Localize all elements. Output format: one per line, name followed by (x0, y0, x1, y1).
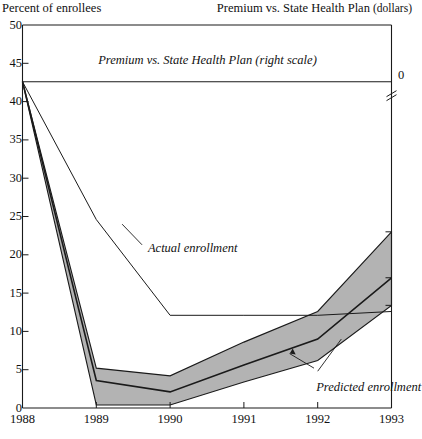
annotation-actual-enrollment: Actual enrollment (148, 241, 237, 256)
x-tick-label: 1988 (0, 413, 53, 425)
x-tick-label: 1993 (362, 413, 422, 425)
y-tick-label: 40 (0, 95, 22, 107)
x-tick-label: 1989 (66, 413, 126, 425)
y-tick-label: 20 (0, 248, 22, 260)
leader-actual (122, 224, 142, 245)
y-tick-label: 5 (0, 363, 22, 375)
actual-enrollment-line (23, 82, 392, 316)
x-tick-label: 1991 (214, 413, 274, 425)
y-tick-label: 25 (0, 210, 22, 222)
y-tick-label: 50 (0, 19, 22, 31)
y-tick-label: 30 (0, 172, 22, 184)
y-tick-label: 10 (0, 325, 22, 337)
annotation-premium-line: Premium vs. State Health Plan (right sca… (0, 53, 415, 68)
y-tick-label: 15 (0, 287, 22, 299)
x-tick-label: 1992 (288, 413, 348, 425)
annotation-predicted-enrollment: Predicted enrollment (316, 380, 421, 395)
x-tick-label: 1990 (140, 413, 200, 425)
y-tick-label: 35 (0, 133, 22, 145)
